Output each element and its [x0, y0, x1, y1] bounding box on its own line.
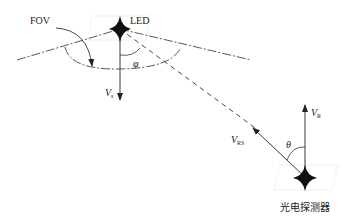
vs-label: Vs [105, 87, 114, 99]
vr-label-sub: R [317, 113, 321, 119]
fov-right-boundary [120, 29, 251, 60]
led-star-icon [109, 16, 131, 42]
phi-label: φ [133, 58, 139, 69]
line-of-sight [120, 29, 258, 130]
led-label: LED [130, 15, 149, 26]
phi-angle-arc [120, 48, 140, 55]
vrs-label: VRS [231, 134, 244, 146]
vs-label-sub: s [111, 93, 114, 99]
theta-label: θ [286, 139, 291, 150]
vr-label: VR [311, 107, 321, 119]
vrs-label-sub: RS [237, 140, 244, 146]
fov-label: FOV [30, 15, 51, 26]
fov-arc [65, 47, 180, 69]
vlc-geometry-diagram: FOV LED Vs φ VRS VR θ 光电探测器 [0, 0, 348, 217]
fov-left-boundary [17, 29, 120, 60]
detector-label: 光电探测器 [280, 201, 330, 213]
